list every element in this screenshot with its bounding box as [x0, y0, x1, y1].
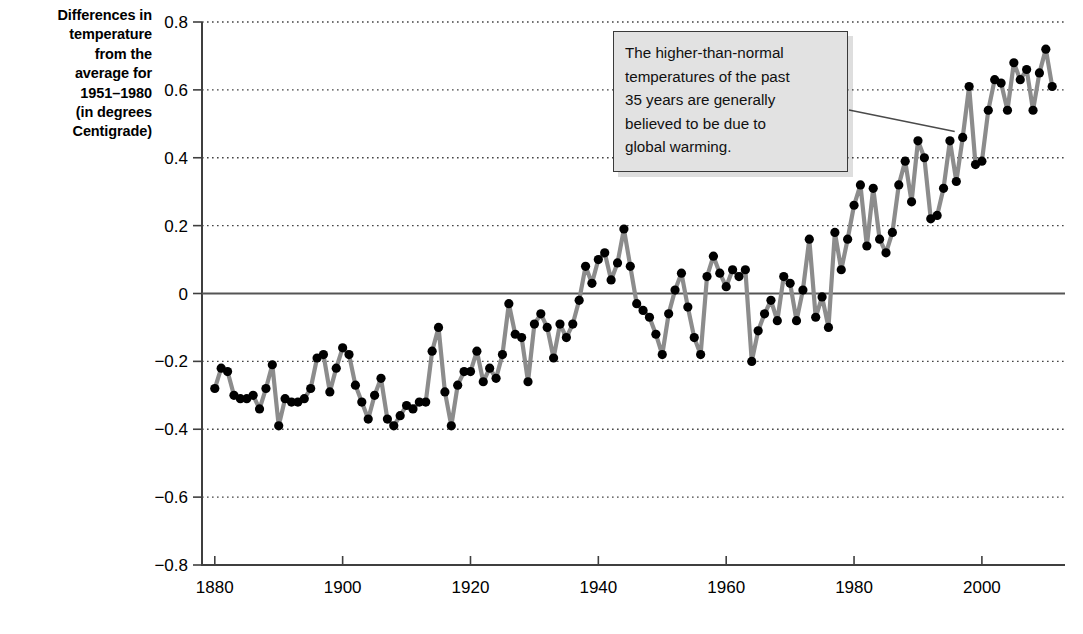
data-point [600, 248, 609, 257]
data-point [396, 411, 405, 420]
data-point [913, 136, 922, 145]
data-point [255, 404, 264, 413]
data-point [364, 414, 373, 423]
data-point [670, 286, 679, 295]
y-tick-label: 0.4 [164, 149, 188, 168]
annotation-line: temperatures of the past [625, 65, 837, 89]
data-point [811, 313, 820, 322]
data-point [536, 309, 545, 318]
data-point [261, 384, 270, 393]
data-point [485, 364, 494, 373]
data-point [555, 319, 564, 328]
data-point [638, 306, 647, 315]
x-tick-label: 2000 [963, 578, 1001, 597]
annotation-line: believed to be due to [625, 112, 837, 136]
data-point [747, 357, 756, 366]
data-point [1003, 106, 1012, 115]
data-point [223, 367, 232, 376]
annotation-leader-line [849, 110, 955, 131]
data-point [817, 292, 826, 301]
data-point [766, 296, 775, 305]
data-point [683, 302, 692, 311]
data-point [581, 262, 590, 271]
data-point [696, 350, 705, 359]
data-point [869, 184, 878, 193]
data-point [677, 269, 686, 278]
y-tick-label: −0.4 [154, 420, 188, 439]
plot-area: 0.80.60.40.20−0.2−0.4−0.6−0.8 1880190019… [0, 0, 1083, 634]
y-tick-label: 0 [179, 285, 188, 304]
data-point [920, 153, 929, 162]
data-point [344, 350, 353, 359]
y-tick-label: 0.8 [164, 13, 188, 32]
data-point [824, 323, 833, 332]
data-point [977, 157, 986, 166]
data-point [875, 235, 884, 244]
data-point [479, 377, 488, 386]
chart-figure: Differences in temperature from the aver… [0, 0, 1083, 634]
y-tick-label: 0.6 [164, 81, 188, 100]
data-point [498, 350, 507, 359]
data-point [568, 319, 577, 328]
data-point [549, 353, 558, 362]
x-tick-label: 1960 [707, 578, 745, 597]
data-point [645, 313, 654, 322]
x-tick-label: 1980 [835, 578, 873, 597]
data-point [472, 347, 481, 356]
data-point [504, 299, 513, 308]
y-axis-ticks: 0.80.60.40.20−0.2−0.4−0.6−0.8 [154, 13, 202, 575]
data-point [376, 374, 385, 383]
data-point [958, 133, 967, 142]
data-point [664, 309, 673, 318]
data-point [894, 180, 903, 189]
data-point [786, 279, 795, 288]
data-point [798, 286, 807, 295]
data-point [306, 384, 315, 393]
data-point [1035, 68, 1044, 77]
data-point [210, 384, 219, 393]
data-point [843, 235, 852, 244]
x-tick-label: 1920 [452, 578, 490, 597]
data-point [530, 319, 539, 328]
data-point [274, 421, 283, 430]
data-point [702, 272, 711, 281]
data-point [1009, 58, 1018, 67]
data-point [447, 421, 456, 430]
data-point [939, 184, 948, 193]
data-point [543, 323, 552, 332]
annotation-line: The higher-than-normal [625, 41, 837, 65]
data-point [325, 387, 334, 396]
data-point [658, 350, 667, 359]
data-point [491, 374, 500, 383]
data-point [268, 360, 277, 369]
y-tick-label: −0.8 [154, 556, 188, 575]
data-point [901, 157, 910, 166]
data-point [594, 255, 603, 264]
data-point [805, 235, 814, 244]
annotation-line: 35 years are generally [625, 88, 837, 112]
data-point [613, 258, 622, 267]
data-point [389, 421, 398, 430]
x-tick-label: 1880 [196, 578, 234, 597]
data-point [421, 398, 430, 407]
data-point [830, 228, 839, 237]
y-tick-label: −0.6 [154, 488, 188, 507]
data-point [952, 177, 961, 186]
data-point [709, 252, 718, 261]
data-point [965, 82, 974, 91]
data-point [383, 414, 392, 423]
data-point [408, 404, 417, 413]
data-point [300, 394, 309, 403]
x-axis-ticks: 1880190019201940196019802000 [196, 556, 1001, 597]
data-point [517, 333, 526, 342]
data-point [888, 228, 897, 237]
annotation-callout: The higher-than-normal temperatures of t… [613, 31, 848, 172]
data-point [1028, 106, 1037, 115]
data-point [741, 265, 750, 274]
data-point [453, 381, 462, 390]
data-point [575, 296, 584, 305]
data-point [984, 106, 993, 115]
data-point [1041, 45, 1050, 54]
data-point [523, 377, 532, 386]
data-point [1048, 82, 1057, 91]
